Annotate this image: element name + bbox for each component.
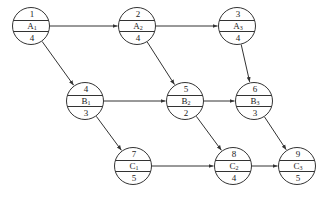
node-number: 2 [119, 8, 156, 20]
node-number: 4 [67, 83, 104, 95]
node-activity: A1 [13, 20, 50, 32]
node-number: 9 [279, 148, 316, 160]
node-circle: 2 A2 4 [118, 7, 156, 45]
activity-subscript: 3 [240, 25, 243, 31]
node-duration: 2 [167, 107, 204, 119]
edge-1-4 [42, 41, 74, 85]
node-activity: B1 [67, 95, 104, 107]
node-activity: C1 [115, 160, 152, 172]
edge-6-9 [264, 117, 286, 150]
node-2: 2 A2 4 [118, 7, 156, 45]
activity-subscript: 1 [34, 25, 37, 31]
node-number: 3 [219, 8, 256, 20]
node-number: 1 [13, 8, 50, 20]
node-activity: A2 [119, 20, 156, 32]
node-1: 1 A1 4 [12, 7, 50, 45]
activity-subscript: 3 [300, 165, 303, 171]
activity-subscript: 1 [136, 165, 139, 171]
node-activity: B3 [236, 95, 273, 107]
edge-2-5 [147, 42, 174, 85]
node-circle: 5 B2 2 [166, 82, 204, 120]
node-circle: 3 A3 4 [218, 7, 256, 45]
node-duration: 4 [215, 172, 252, 184]
activity-subscript: 1 [88, 100, 91, 106]
node-duration: 4 [119, 32, 156, 44]
node-circle: 9 C3 5 [278, 147, 316, 185]
node-circle: 6 B3 3 [235, 82, 273, 120]
node-activity: C3 [279, 160, 316, 172]
edge-5-8 [196, 116, 221, 150]
node-duration: 3 [67, 107, 104, 119]
node-circle: 4 B1 3 [66, 82, 104, 120]
node-duration: 4 [13, 32, 50, 44]
activity-subscript: 2 [188, 100, 191, 106]
node-circle: 1 A1 4 [12, 7, 50, 45]
node-number: 5 [167, 83, 204, 95]
activity-subscript: 2 [140, 25, 143, 31]
activity-subscript: 3 [257, 100, 260, 106]
edge-3-6 [241, 45, 249, 82]
activity-subscript: 2 [236, 165, 239, 171]
node-number: 7 [115, 148, 152, 160]
node-activity: B2 [167, 95, 204, 107]
node-number: 6 [236, 83, 273, 95]
node-7: 7 C1 5 [114, 147, 152, 185]
node-8: 8 C2 4 [214, 147, 252, 185]
node-number: 8 [215, 148, 252, 160]
node-duration: 5 [115, 172, 152, 184]
edge-4-7 [96, 116, 121, 150]
node-duration: 3 [236, 107, 273, 119]
node-duration: 5 [279, 172, 316, 184]
node-4: 4 B1 3 [66, 82, 104, 120]
node-circle: 7 C1 5 [114, 147, 152, 185]
node-3: 3 A3 4 [218, 7, 256, 45]
node-activity: C2 [215, 160, 252, 172]
node-activity: A3 [219, 20, 256, 32]
node-9: 9 C3 5 [278, 147, 316, 185]
node-6: 6 B3 3 [235, 82, 273, 120]
node-duration: 4 [219, 32, 256, 44]
network-diagram: 1 A1 4 2 A2 4 3 A3 4 4 B1 3 5 B2 2 [0, 0, 336, 198]
node-circle: 8 C2 4 [214, 147, 252, 185]
node-5: 5 B2 2 [166, 82, 204, 120]
